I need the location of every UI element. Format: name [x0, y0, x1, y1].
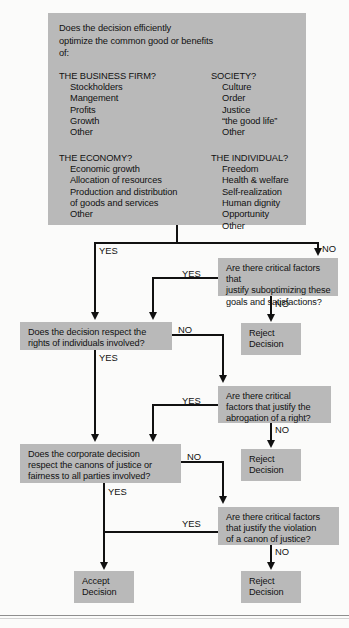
group-individual: THE INDIVIDUAL? Freedom Health & welfare… — [211, 153, 289, 232]
question-text: Are there critical factors that justify … — [226, 391, 324, 425]
top-question-box: Does the decision efficiently optimize t… — [48, 13, 306, 225]
list-item: “the good life” — [222, 116, 289, 127]
edge-topbox-stem — [176, 225, 178, 243]
edge-label-yes: YES — [108, 486, 127, 497]
edge-no-rights-v — [222, 334, 224, 376]
edge-label-no: NO — [275, 546, 289, 557]
list-item: Freedom — [222, 164, 289, 175]
edge-yes-violat-h — [103, 531, 218, 533]
list-item: Growth — [70, 116, 177, 127]
top-column-right: SOCIETY? Culture Order Justice “the good… — [211, 71, 289, 232]
top-question-intro: Does the decision efficiently optimize t… — [59, 23, 213, 58]
edge-yes-top-left — [94, 242, 96, 314]
list-item: Mangement — [70, 93, 177, 104]
edge-label-yes: YES — [182, 268, 201, 279]
arrowhead-down — [267, 562, 275, 570]
list-item: Justice — [222, 105, 289, 116]
edge-label-yes: YES — [99, 245, 118, 256]
list-item: Economic growth — [70, 164, 177, 175]
edge-label-no: NO — [275, 298, 289, 309]
group-heading: THE INDIVIDUAL? — [211, 153, 288, 163]
question-suboptimize-box: Are there critical factors that justify … — [218, 258, 338, 296]
arrowhead-down — [267, 314, 275, 322]
group-items: Stockholders Mangement Profits Growth Ot… — [59, 82, 177, 139]
question-text: Does the corporate decision respect the … — [28, 449, 174, 483]
list-item: Human dignity — [222, 198, 289, 209]
arrowhead-down — [100, 562, 108, 570]
list-item: Production and distribution of goods and… — [70, 187, 177, 210]
edge-level1-split — [94, 242, 319, 244]
edge-label-no: NO — [322, 243, 336, 254]
top-column-left: THE BUSINESS FIRM? Stockholders Mangemen… — [59, 71, 177, 221]
arrowhead-down — [314, 248, 322, 256]
arrowhead-down — [267, 440, 275, 448]
group-economy: THE ECONOMY? Economic growth Allocation … — [59, 153, 177, 221]
terminal-text: Reject Decision — [249, 454, 294, 476]
group-items: Culture Order Justice “the good life” Ot… — [211, 82, 289, 139]
arrowhead-down — [149, 434, 157, 442]
question-canons-box: Does the corporate decision respect the … — [20, 444, 181, 483]
list-item: Health & welfare — [222, 175, 289, 186]
group-society: SOCIETY? Culture Order Justice “the good… — [211, 71, 289, 139]
reject-decision-box-3: Reject Decision — [241, 571, 301, 603]
question-rights-box: Does the decision respect the rights of … — [20, 322, 172, 350]
arrowhead-down — [91, 312, 99, 320]
accept-decision-box: Accept Decision — [74, 571, 134, 603]
bottom-divider-shadow — [0, 618, 349, 619]
edge-yes-abrog-v — [152, 404, 154, 436]
terminal-text: Accept Decision — [82, 576, 127, 598]
list-item: Self-realization — [222, 187, 289, 198]
list-item: Other — [70, 209, 177, 220]
list-item: Allocation of resources — [70, 175, 177, 186]
edge-no-subopt — [270, 296, 272, 316]
list-item: Stockholders — [70, 82, 177, 93]
edge-yes-subopt-v — [152, 277, 154, 314]
question-violation-box: Are there critical factors that justify … — [218, 507, 339, 545]
list-item: Opportunity — [222, 209, 289, 220]
list-item: Other — [70, 127, 177, 138]
arrowhead-down — [219, 496, 227, 504]
reject-decision-box-2: Reject Decision — [241, 449, 301, 481]
question-abrogation-box: Are there critical factors that justify … — [218, 386, 331, 423]
group-items: Economic growth Allocation of resources … — [59, 164, 177, 221]
group-heading: THE ECONOMY? — [59, 153, 132, 163]
edge-label-yes: YES — [182, 395, 201, 406]
edge-label-no: NO — [187, 451, 201, 462]
edge-label-no: NO — [275, 424, 289, 435]
terminal-text: Reject Decision — [249, 576, 294, 598]
reject-decision-box-1: Reject Decision — [241, 323, 301, 355]
list-item: Other — [222, 221, 289, 232]
edge-label-yes: YES — [99, 352, 118, 363]
arrowhead-down — [91, 434, 99, 442]
arrowhead-down — [149, 312, 157, 320]
question-text: Does the decision respect the rights of … — [28, 327, 165, 349]
terminal-text: Reject Decision — [249, 328, 294, 350]
list-item: Order — [222, 93, 289, 104]
group-heading: SOCIETY? — [211, 71, 256, 81]
flowchart-canvas: Does the decision efficiently optimize t… — [0, 0, 349, 628]
edge-yes-rights — [94, 350, 96, 436]
edge-no-canons-v — [222, 461, 224, 497]
edge-label-yes: YES — [182, 518, 201, 529]
group-business-firm: THE BUSINESS FIRM? Stockholders Mangemen… — [59, 71, 177, 139]
group-items: Freedom Health & welfare Self-realizatio… — [211, 164, 289, 232]
bottom-divider — [0, 615, 349, 616]
arrowhead-down — [219, 375, 227, 383]
list-item: Profits — [70, 105, 177, 116]
list-item: Other — [222, 127, 289, 138]
question-text: Are there critical factors that justify … — [226, 512, 332, 546]
edge-yes-canons — [103, 483, 105, 565]
edge-label-no: NO — [178, 324, 192, 335]
group-heading: THE BUSINESS FIRM? — [59, 71, 156, 81]
list-item: Culture — [222, 82, 289, 93]
